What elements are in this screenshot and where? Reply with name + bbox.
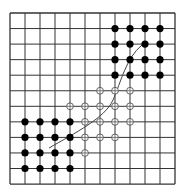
open-circle-marker <box>97 87 104 94</box>
filled-dot-marker <box>111 41 118 48</box>
figure-caption <box>0 187 184 196</box>
filled-dot-marker <box>156 72 163 79</box>
open-circle-marker <box>97 118 104 125</box>
filled-dot-markers <box>21 25 163 172</box>
filled-dot-marker <box>141 41 148 48</box>
open-circle-marker <box>127 118 134 125</box>
filled-dot-marker <box>156 56 163 63</box>
open-circle-marker <box>82 118 89 125</box>
filled-dot-marker <box>126 72 133 79</box>
open-circle-marker <box>82 103 89 110</box>
open-circle-marker <box>112 103 119 110</box>
filled-dot-marker <box>21 134 28 141</box>
open-circle-marker <box>67 103 74 110</box>
open-circle-marker <box>127 87 134 94</box>
filled-dot-marker <box>111 25 118 32</box>
filled-dot-marker <box>66 165 73 172</box>
filled-dot-marker <box>66 149 73 156</box>
grid-diagram <box>0 0 184 196</box>
filled-dot-marker <box>51 118 58 125</box>
open-circle-marker <box>112 118 119 125</box>
filled-dot-marker <box>111 72 118 79</box>
filled-dot-marker <box>51 165 58 172</box>
grid-lines <box>10 13 175 184</box>
filled-dot-marker <box>141 56 148 63</box>
filled-dot-marker <box>126 41 133 48</box>
open-circle-marker <box>97 103 104 110</box>
filled-dot-marker <box>66 134 73 141</box>
filled-dot-marker <box>21 118 28 125</box>
filled-dot-marker <box>51 134 58 141</box>
filled-dot-marker <box>126 56 133 63</box>
open-circle-marker <box>82 134 89 141</box>
filled-dot-marker <box>36 165 43 172</box>
filled-dot-marker <box>36 149 43 156</box>
filled-dot-marker <box>36 134 43 141</box>
filled-dot-marker <box>141 72 148 79</box>
filled-dot-marker <box>51 149 58 156</box>
filled-dot-marker <box>21 149 28 156</box>
filled-dot-marker <box>66 118 73 125</box>
filled-dot-marker <box>21 165 28 172</box>
open-circle-marker <box>97 134 104 141</box>
open-circle-marker <box>82 150 89 157</box>
filled-dot-marker <box>156 41 163 48</box>
open-circle-marker <box>127 103 134 110</box>
filled-dot-marker <box>126 25 133 32</box>
filled-dot-marker <box>111 56 118 63</box>
open-circle-marker <box>112 134 119 141</box>
filled-dot-marker <box>141 25 148 32</box>
filled-dot-marker <box>36 118 43 125</box>
filled-dot-marker <box>156 25 163 32</box>
open-circle-marker <box>112 87 119 94</box>
